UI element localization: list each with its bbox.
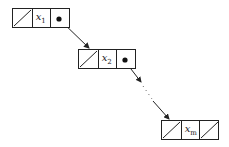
list-node-1: x1 xyxy=(12,8,70,28)
pointer-cell xyxy=(116,50,135,68)
null-link-cell xyxy=(79,50,98,68)
arrow-node2-segment-end xyxy=(153,101,169,119)
pointer-dot-icon xyxy=(117,50,136,68)
data-cell: x1 xyxy=(32,9,51,27)
null-link-cell xyxy=(162,121,181,139)
list-node-2: x2 xyxy=(78,49,136,69)
null-slash-icon xyxy=(13,9,32,27)
null-pointer-cell xyxy=(199,121,218,139)
null-link-cell xyxy=(13,9,32,27)
list-node-m: xm xyxy=(161,120,219,140)
pointer-dot-icon xyxy=(51,9,70,27)
arrow-node2-ellipsis xyxy=(143,86,152,99)
null-slash-icon xyxy=(79,50,98,68)
data-cell: xm xyxy=(181,121,200,139)
node-label: xm xyxy=(185,123,197,137)
pointer-cell xyxy=(50,9,69,27)
data-cell: x2 xyxy=(98,50,117,68)
node-label: x1 xyxy=(36,11,46,25)
null-slash-icon xyxy=(162,121,181,139)
null-slash-icon xyxy=(200,121,219,139)
node-label: x2 xyxy=(102,52,112,66)
